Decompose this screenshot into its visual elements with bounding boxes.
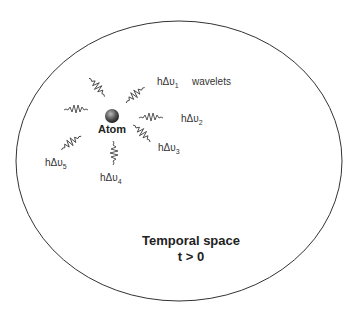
diagram-canvas: Atom hΔυ1 wavelets hΔυ2 hΔυ3 hΔυ4 hΔυ5 T…: [0, 0, 356, 317]
region-condition: t > 0: [178, 249, 204, 264]
wavelet-5: [59, 132, 83, 152]
wavelet-4-label: hΔυ4: [100, 172, 122, 185]
wavelet-5-label: hΔυ5: [45, 157, 67, 170]
region-title: Temporal space: [142, 233, 240, 248]
wavelet-3: [131, 122, 154, 145]
wavelet-3-label: hΔυ3: [158, 142, 180, 155]
atom-icon: [105, 109, 119, 123]
wavelet-1-label: hΔυ1: [157, 76, 179, 89]
wavelet-4: [110, 141, 118, 165]
atom-label: Atom: [98, 123, 126, 135]
wavelet-2-label: hΔυ2: [181, 113, 203, 126]
wavelets-label: wavelets: [191, 76, 231, 87]
wavelet-2: [139, 113, 163, 121]
wavelet-upper-left: [87, 75, 109, 99]
wavelet-left: [64, 105, 88, 113]
wavelet-1: [123, 84, 147, 106]
